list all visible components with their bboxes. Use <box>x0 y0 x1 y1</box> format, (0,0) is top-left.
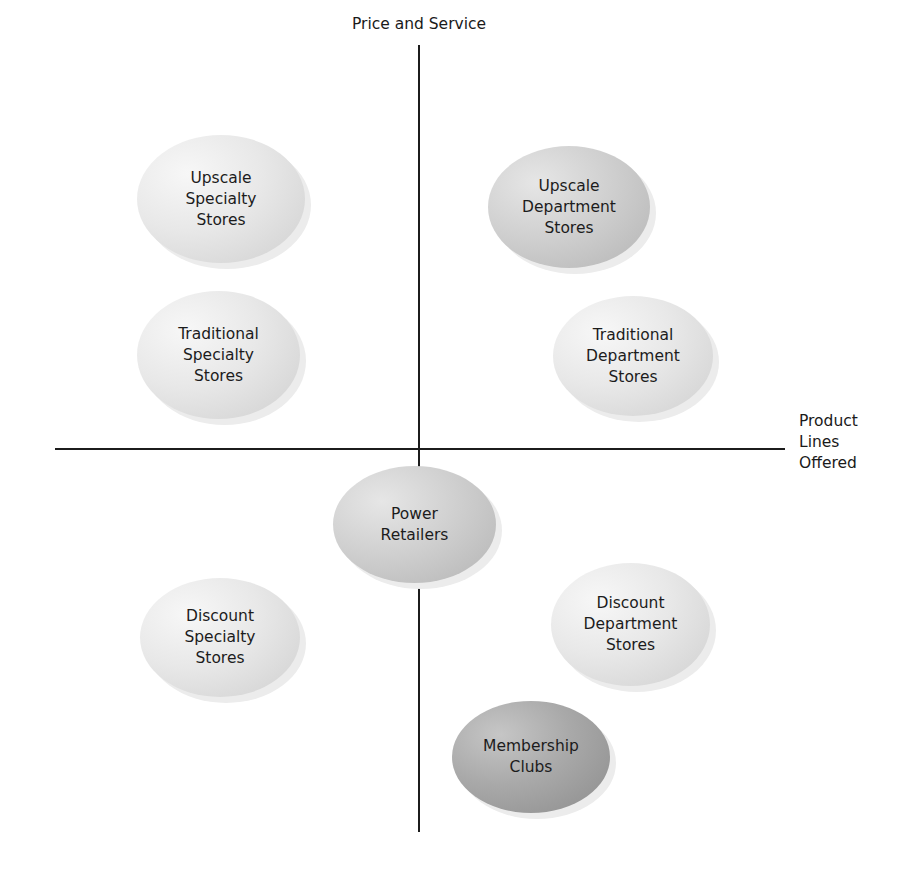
bubble-label-line: Stores <box>184 648 255 669</box>
bubble-label-line: Stores <box>586 367 680 388</box>
bubble-label-line: Specialty <box>184 627 255 648</box>
bubble-label-line: Membership <box>483 736 579 757</box>
bubble-label-line: Discount <box>184 606 255 627</box>
bubble-upscale-department-stores: Upscale Department Stores <box>488 146 650 268</box>
bubble-label-line: Department <box>584 614 678 635</box>
bubble-label-line: Stores <box>185 210 256 231</box>
bubble-upscale-specialty-stores: Upscale Specialty Stores <box>137 135 305 263</box>
bubble-label-line: Stores <box>584 635 678 656</box>
bubble-label-line: Stores <box>178 366 259 387</box>
bubble-label-line: Clubs <box>483 757 579 778</box>
bubble-label-line: Power <box>381 504 449 525</box>
bubble-layer: Upscale Specialty Stores Upscale Departm… <box>0 0 924 882</box>
bubble-label-line: Stores <box>522 218 616 239</box>
bubble-label-line: Upscale <box>185 168 256 189</box>
bubble-traditional-department-stores: Traditional Department Stores <box>553 296 713 416</box>
bubble-label-line: Upscale <box>522 176 616 197</box>
bubble-discount-department-stores: Discount Department Stores <box>551 563 710 686</box>
bubble-label-line: Department <box>586 346 680 367</box>
bubble-label-line: Department <box>522 197 616 218</box>
bubble-label-line: Discount <box>584 593 678 614</box>
bubble-label-line: Specialty <box>185 189 256 210</box>
bubble-label-line: Retailers <box>381 525 449 546</box>
bubble-traditional-specialty-stores: Traditional Specialty Stores <box>137 291 300 419</box>
bubble-label-line: Traditional <box>586 325 680 346</box>
bubble-power-retailers: Power Retailers <box>333 466 496 583</box>
bubble-label-line: Specialty <box>178 345 259 366</box>
bubble-label-line: Traditional <box>178 324 259 345</box>
bubble-discount-specialty-stores: Discount Specialty Stores <box>140 578 300 697</box>
bubble-membership-clubs: Membership Clubs <box>452 701 610 813</box>
